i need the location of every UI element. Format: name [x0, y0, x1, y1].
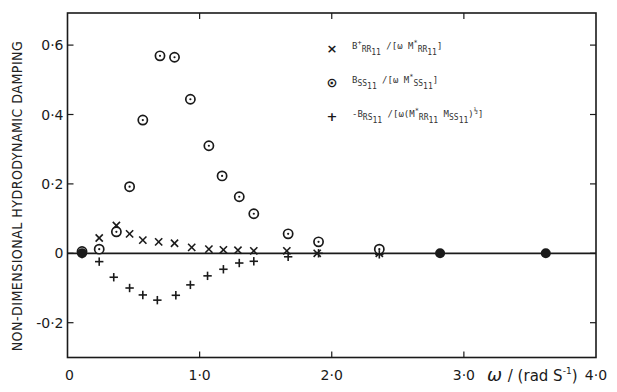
legend-label-brs: -BRS11 /[ω(M*RR11 MSS11)½]	[352, 107, 483, 124]
y-tick-label: 0·6	[41, 37, 63, 53]
x-tick-label: 4·0	[585, 367, 607, 383]
x-marker	[188, 244, 195, 251]
legend-item-brs: + -BRS11 /[ω(M*RR11 MSS11)½]	[322, 104, 483, 128]
x-tick-label: 1·0	[188, 367, 210, 383]
+-marker	[95, 257, 103, 265]
y-axis-label-text: NON-DIMENSIONAL HYDRODYNAMIC DAMPING	[9, 41, 25, 352]
x-marker	[205, 246, 212, 253]
y-tick-label: -0·2	[36, 315, 63, 331]
+-marker	[250, 257, 258, 265]
x-tick-label: 3·0	[453, 367, 475, 383]
circle-dot-marker	[217, 171, 226, 180]
circle-dot-marker	[125, 182, 134, 191]
svg-text:ω / (rad S-1): ω / (rad S-1)	[487, 364, 577, 385]
+-marker	[139, 291, 147, 299]
y-tick-label: 0·4	[41, 107, 63, 123]
legend-label-bss: BSS11 /[ω M*SS11]	[352, 73, 438, 90]
filled-circle-marker	[541, 248, 551, 258]
y-tick-label: 0·2	[41, 176, 63, 192]
legend-label-brr: B+RR11 /[ω M*RR11]	[352, 39, 442, 56]
x-axis-label: ω / (rad S-1)	[487, 364, 577, 385]
+-marker	[203, 272, 211, 280]
legend-item-brr: × B+RR11 /[ω M*RR11]	[322, 36, 442, 60]
+-marker	[235, 259, 243, 267]
+-marker	[219, 265, 227, 273]
x-tick-label: 0	[65, 367, 74, 383]
x-marker	[171, 240, 178, 247]
circle-dot-marker	[138, 115, 147, 124]
filled-circle-marker	[435, 248, 445, 258]
x-marker	[139, 237, 146, 244]
+-marker	[186, 281, 194, 289]
circle-dot-marker	[155, 51, 164, 60]
filled-circle-marker	[77, 248, 87, 258]
x-tick-label: 2·0	[321, 367, 343, 383]
circle-dot-marker	[112, 227, 121, 236]
y-tick-label: 0	[55, 245, 64, 261]
circle-dot-marker	[204, 141, 213, 150]
plot-border	[68, 13, 597, 358]
circle-dot-marker	[186, 95, 195, 104]
x-marker	[155, 238, 162, 245]
legend-item-bss: ⊙ BSS11 /[ω M*SS11]	[322, 70, 438, 94]
circle-dot-marker	[249, 209, 258, 218]
circle-dot-marker	[235, 192, 244, 201]
data-points	[77, 51, 551, 304]
+-marker	[172, 291, 180, 299]
+-marker	[153, 296, 161, 304]
circle-dot-marker	[314, 237, 323, 246]
circle-dot-marker-icon: ⊙	[322, 75, 342, 90]
+-marker	[314, 249, 322, 257]
x-marker	[96, 234, 103, 241]
plot-frame	[68, 13, 597, 358]
x-marker-icon: ×	[322, 41, 342, 56]
axis-ticks: 01·02·03·04·0-0·200·20·40·6	[36, 13, 607, 383]
x-marker	[220, 246, 227, 253]
x-marker	[126, 230, 133, 237]
plus-marker-icon: +	[322, 109, 342, 124]
y-axis-label: NON-DIMENSIONAL HYDRODYNAMIC DAMPING	[2, 0, 32, 392]
circle-dot-marker	[284, 229, 293, 238]
circle-dot-marker	[170, 53, 179, 62]
+-marker	[110, 273, 118, 281]
circle-dot-marker	[95, 245, 104, 254]
damping-chart: 01·02·03·04·0-0·200·20·40·6 ω / (rad S-1…	[0, 0, 617, 392]
+-marker	[125, 284, 133, 292]
